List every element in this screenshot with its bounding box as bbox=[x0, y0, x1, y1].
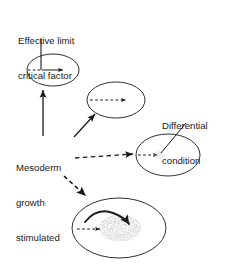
label-effective-limit-line2: critical factor bbox=[18, 70, 74, 82]
label-differential-line1: Differential bbox=[162, 120, 208, 132]
label-effective-limit: Effective limit critical factor bbox=[18, 12, 74, 105]
label-mesoderm-line2: growth bbox=[16, 197, 61, 209]
label-mesoderm-line1: Mesoderm bbox=[16, 162, 61, 174]
label-mesoderm-line3: stimulated bbox=[16, 232, 61, 244]
blob-bottom-growth bbox=[99, 215, 141, 242]
arrow-mesoderm-to-bottom bbox=[64, 176, 86, 196]
label-mesoderm-growth-stimulated: Mesoderm growth stimulated bbox=[16, 139, 61, 267]
arrow-mesoderm-to-differential bbox=[75, 154, 133, 158]
diagram-canvas: Effective limit critical factor Mesoderm… bbox=[0, 0, 227, 271]
label-differential-condition: Differential condition bbox=[162, 97, 208, 190]
label-differential-line2: condition bbox=[162, 155, 208, 167]
label-effective-limit-line1: Effective limit bbox=[18, 35, 74, 47]
arrow-mesoderm-to-upper-middle bbox=[74, 114, 95, 137]
